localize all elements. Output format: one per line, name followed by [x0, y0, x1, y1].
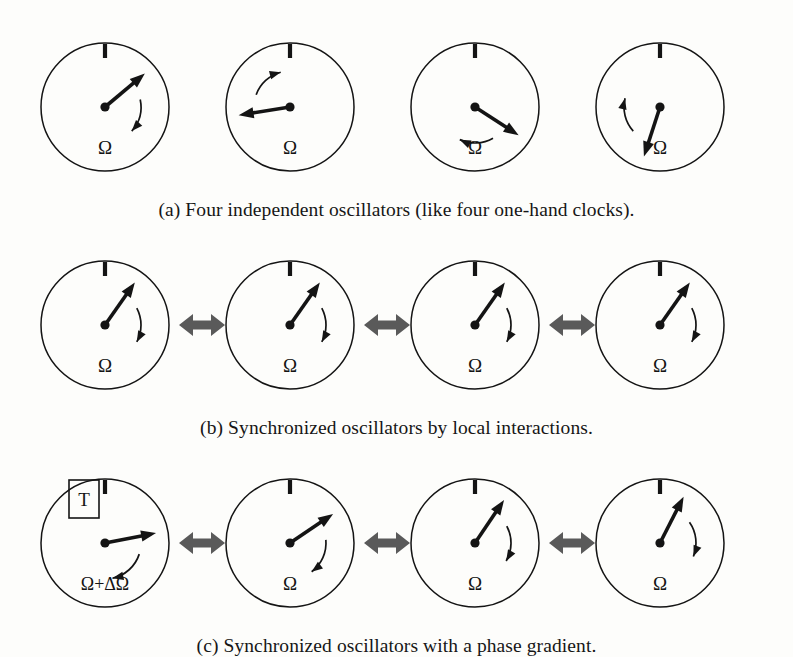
clock-hand-arrowhead [140, 530, 156, 541]
rotation-arc-arrowhead [132, 120, 142, 131]
frequency-label: Ω [653, 355, 667, 376]
oscillator-a-4: Ω [570, 17, 750, 197]
clock-hand [660, 506, 679, 543]
frequency-label: Ω [283, 137, 297, 158]
oscillator-c-3: Ω [385, 453, 565, 633]
caption-b: (b) Synchronized oscillators by local in… [0, 417, 793, 439]
oscillator-b-4: Ω [570, 235, 750, 415]
clock-center-dot [100, 320, 109, 329]
oscillator-figure: ΩΩΩΩ(a) Four independent oscillators (li… [0, 0, 793, 657]
frequency-label: Ω [468, 573, 482, 594]
frequency-label: Ω [653, 137, 667, 158]
coupling-link-b-1 [179, 308, 225, 342]
frequency-label: Ω [468, 355, 482, 376]
coupling-arrow [179, 308, 225, 342]
perturbation-marker-letter: T [78, 489, 90, 510]
coupling-arrow [364, 526, 410, 560]
coupling-arrow-shape [179, 532, 225, 554]
rotation-arc-arrowhead [269, 71, 281, 79]
clock-face-b-4: Ω [570, 235, 750, 415]
frequency-label: Ω+ΔΩ [81, 574, 129, 594]
clock-face-a-4: Ω [570, 17, 750, 197]
clock-center-dot [100, 538, 109, 547]
caption-a: (a) Four independent oscillators (like f… [0, 199, 793, 221]
coupling-arrow-shape [179, 314, 225, 336]
coupling-link-b-2 [364, 308, 410, 342]
clock-hand [105, 535, 145, 543]
clock-face-c-2: Ω [200, 453, 380, 633]
clock-center-dot [285, 102, 294, 111]
frequency-label: Ω [468, 137, 482, 158]
clock-center-dot [470, 538, 479, 547]
frequency-label: Ω [653, 573, 667, 594]
clock-hand [475, 107, 509, 129]
caption-c: (c) Synchronized oscillators with a phas… [0, 635, 793, 657]
oscillator-b-2: Ω [200, 235, 380, 415]
clock-hand [475, 509, 498, 543]
clock-face-a-3: Ω [385, 17, 565, 197]
frequency-label: Ω [98, 137, 112, 158]
clock-hand [290, 520, 324, 543]
frequency-label: Ω [98, 355, 112, 376]
coupling-link-c-2 [364, 526, 410, 560]
clock-hand [475, 291, 499, 325]
coupling-link-c-1 [179, 526, 225, 560]
rotation-arc-arrowhead [507, 330, 516, 342]
clock-face-b-2: Ω [200, 235, 380, 415]
clock-center-dot [655, 538, 664, 547]
oscillator-a-2: Ω [200, 17, 380, 197]
rotation-direction-arc [256, 72, 281, 94]
coupling-link-c-3 [549, 526, 595, 560]
clock-face-c-1: Ω+ΔΩT [15, 453, 195, 633]
clock-face-a-2: Ω [200, 17, 380, 197]
rotation-arc-arrowhead [322, 330, 331, 342]
coupling-arrow [364, 308, 410, 342]
clock-hand [290, 291, 314, 325]
coupling-arrow [549, 526, 595, 560]
clock-hand [105, 291, 129, 325]
oscillator-b-1: Ω [15, 235, 195, 415]
clock-hand [105, 81, 136, 107]
clock-face-b-1: Ω [15, 235, 195, 415]
rotation-arc-arrowhead [693, 545, 701, 557]
clock-face-a-1: Ω [15, 17, 195, 197]
coupling-arrow-shape [364, 314, 410, 336]
oscillator-c-2: Ω [200, 453, 380, 633]
rotation-arc-arrowhead [618, 98, 626, 110]
coupling-link-b-3 [549, 308, 595, 342]
clock-center-dot [655, 320, 664, 329]
coupling-arrow-shape [549, 314, 595, 336]
rotation-arc-arrowhead [692, 330, 701, 342]
frequency-label: Ω [283, 355, 297, 376]
oscillator-c-1: Ω+ΔΩT [15, 453, 195, 633]
clock-center-dot [655, 102, 664, 111]
clock-face-c-3: Ω [385, 453, 565, 633]
clock-hand [660, 291, 684, 325]
clock-center-dot [470, 320, 479, 329]
clock-center-dot [470, 102, 479, 111]
rotation-arc-arrowhead [137, 330, 146, 342]
clock-hand-arrowhead [503, 122, 519, 135]
oscillator-a-3: Ω [385, 17, 565, 197]
clock-center-dot [285, 538, 294, 547]
clock-face-b-3: Ω [385, 235, 565, 415]
oscillator-c-4: Ω [570, 453, 750, 633]
frequency-label: Ω [283, 573, 297, 594]
clock-hand-arrowhead [672, 497, 684, 513]
clock-face-c-4: Ω [570, 453, 750, 633]
coupling-arrow-shape [364, 532, 410, 554]
clock-hand-arrowhead [239, 107, 255, 118]
clock-center-dot [100, 102, 109, 111]
oscillator-b-3: Ω [385, 235, 565, 415]
oscillator-a-1: Ω [15, 17, 195, 197]
coupling-arrow [549, 308, 595, 342]
clock-center-dot [285, 320, 294, 329]
clock-hand [250, 107, 290, 113]
coupling-arrow-shape [549, 532, 595, 554]
coupling-arrow [179, 526, 225, 560]
rotation-arc-arrowhead [506, 549, 515, 561]
rotation-arc-arrowhead [312, 562, 323, 572]
